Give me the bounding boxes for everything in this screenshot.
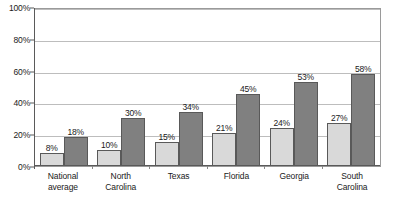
x-axis-category-label: NorthCarolina [92,171,150,193]
bar[interactable]: 58% [351,74,375,166]
x-axis-category-label: Nationalaverage [34,171,92,193]
bar-group: 27%58% [323,9,381,166]
bar-value-label: 45% [240,84,256,94]
bar[interactable]: 15% [155,142,179,166]
bar[interactable]: 30% [121,118,145,166]
bar-group: 21%45% [208,9,266,166]
bar-group: 24%53% [265,9,323,166]
x-axis-category-label: Georgia [265,171,323,193]
category-label-line: Carolina [92,182,150,193]
y-axis-tick-mark [30,71,34,72]
category-label-line: Georgia [265,171,323,182]
plot-area: 8%18%10%30%15%34%21%45%24%53%27%58% [34,8,381,167]
bar-value-label: 24% [274,118,290,128]
bar-group: 8%18% [35,9,93,166]
x-axis-tick-mark [264,166,265,169]
bar-value-label: 8% [46,143,58,153]
y-axis-tick-label: 40% [14,98,30,108]
bar-pair: 24%53% [265,9,323,166]
bar-pair: 21%45% [208,9,266,166]
y-axis-tick-label: 80% [14,35,30,45]
bar[interactable]: 45% [236,94,260,166]
x-axis-category-label: Texas [150,171,208,193]
x-axis-category-label: SouthCarolina [323,171,381,193]
x-axis-tick-mark [322,166,323,169]
bar-value-label: 15% [159,132,175,142]
bar-value-label: 27% [331,113,347,123]
y-axis-tick-label: 20% [14,130,30,140]
bar[interactable]: 34% [179,112,203,166]
bar-value-label: 18% [68,127,84,137]
y-axis-tick-mark [30,103,34,104]
category-label-line: Florida [207,171,265,182]
bar[interactable]: 53% [294,82,318,166]
y-axis-tick-label: 60% [14,67,30,77]
x-axis-tick-mark [92,166,93,169]
x-axis-tick-mark [207,166,208,169]
bar-value-label: 21% [216,123,232,133]
bar-pair: 10%30% [93,9,151,166]
category-label-line: average [34,182,92,193]
x-axis-tick-mark [149,166,150,169]
y-axis-tick-label: 100% [9,3,30,13]
y-axis: 0%20%40%60%80%100% [0,0,30,210]
bar-value-label: 34% [183,102,199,112]
bar-value-label: 53% [298,72,314,82]
bar-value-label: 10% [101,140,117,150]
bar[interactable]: 8% [40,153,64,166]
category-label-line: North [92,171,150,182]
bar[interactable]: 10% [97,150,121,166]
bar[interactable]: 18% [64,137,88,166]
bar-pair: 27%58% [323,9,381,166]
y-axis-tick-mark [30,167,34,168]
bar-pair: 15%34% [150,9,208,166]
bar[interactable]: 27% [327,123,351,166]
category-label-line: South [323,171,381,182]
bar[interactable]: 24% [270,128,294,166]
category-label-line: Texas [150,171,208,182]
bar-value-label: 58% [355,64,371,74]
bar-pair: 8%18% [35,9,93,166]
x-axis-category-labels: NationalaverageNorthCarolinaTexasFlorida… [34,171,381,193]
bar[interactable]: 21% [212,133,236,166]
y-axis-tick-mark [30,39,34,40]
category-label-line: National [34,171,92,182]
bar-value-label: 30% [125,108,141,118]
y-axis-tick-mark [30,135,34,136]
bar-chart: 0%20%40%60%80%100% 8%18%10%30%15%34%21%4… [0,0,393,210]
category-label-line: Carolina [323,182,381,193]
bar-groups: 8%18%10%30%15%34%21%45%24%53%27%58% [35,9,380,166]
bar-group: 15%34% [150,9,208,166]
bar-group: 10%30% [93,9,151,166]
y-axis-tick-label: 0% [18,162,30,172]
y-axis-tick-mark [30,8,34,9]
x-axis-category-label: Florida [207,171,265,193]
